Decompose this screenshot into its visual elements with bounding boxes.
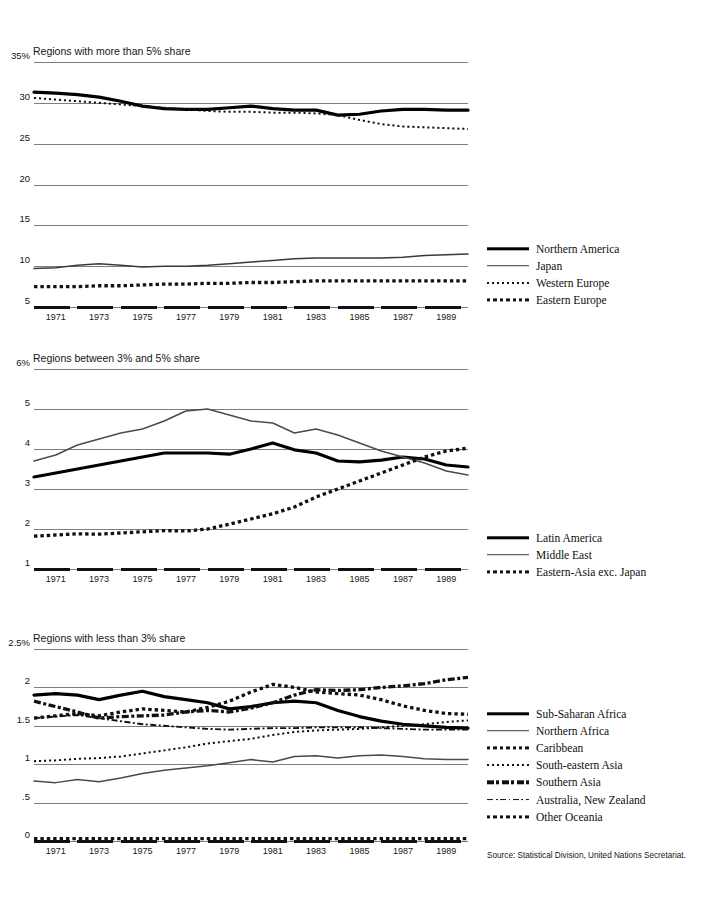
legend-swatch-icon: [487, 243, 529, 255]
x-axis-tick-label: 1971: [46, 312, 66, 322]
y-axis-tick-label: 2.5%: [8, 638, 30, 649]
legend-item[interactable]: Southern Asia: [487, 774, 646, 791]
legend-item[interactable]: Caribbean: [487, 739, 646, 756]
legend-item[interactable]: Other Oceania: [487, 808, 646, 825]
x-axis-tick-label: 1985: [349, 846, 369, 856]
legend-item-label: Eastern-Asia exc. Japan: [536, 566, 646, 578]
panel-3-legend: Sub-Saharan AfricaNorthern AfricaCaribbe…: [487, 705, 646, 825]
x-axis-labels: 1971197319751977197919811983198519871989: [34, 846, 468, 860]
legend-item[interactable]: Western Europe: [487, 274, 619, 291]
x-axis-tick-label: 1977: [176, 312, 196, 322]
legend-swatch-icon: [487, 294, 529, 306]
x-axis-tick-label: 1977: [176, 574, 196, 584]
series-line: [34, 755, 468, 783]
y-axis-tick-label: 25: [19, 133, 30, 144]
legend-item[interactable]: South-eastern Asia: [487, 757, 646, 774]
legend-item[interactable]: Eastern Europe: [487, 292, 619, 309]
legend-item-label: Northern Africa: [536, 725, 609, 737]
series-layer: [34, 649, 468, 841]
legend-swatch-icon: [487, 708, 529, 720]
legend-swatch-icon: [487, 260, 529, 272]
x-axis-tick-label: 1979: [219, 574, 239, 584]
series-line: [34, 720, 468, 761]
legend-item[interactable]: Northern America: [487, 240, 619, 257]
x-axis-tick-label: 1973: [89, 846, 109, 856]
x-axis-tick-label: 1987: [393, 574, 413, 584]
series-layer: [34, 369, 468, 569]
y-axis-tick-label: 2: [25, 676, 30, 687]
y-axis-tick-label: 0: [25, 830, 30, 841]
y-axis-tick-label: 35%: [11, 51, 30, 62]
panel-1-legend: Northern AmericaJapanWestern EuropeEaste…: [487, 240, 619, 309]
legend-swatch-icon: [487, 277, 529, 289]
legend-swatch-icon: [487, 532, 529, 544]
x-axis-tick-label: 1975: [132, 312, 152, 322]
x-axis-tick-label: 1983: [306, 574, 326, 584]
series-line: [34, 254, 468, 269]
legend-item[interactable]: Latin America: [487, 529, 646, 546]
legend-item-label: Eastern Europe: [536, 294, 607, 306]
legend-swatch-icon: [487, 759, 529, 771]
y-axis-tick-label: 15: [19, 214, 30, 225]
x-axis-tick-label: 1979: [219, 846, 239, 856]
y-axis-tick-label: 5: [25, 296, 30, 307]
panel-1-title: Regions with more than 5% share: [33, 45, 191, 57]
legend-swatch-icon: [487, 794, 529, 806]
panel-1-plot-area: 35%3025201510519711973197519771979198119…: [34, 62, 468, 307]
x-axis-rule: [34, 840, 468, 843]
series-line: [34, 715, 468, 730]
legend-swatch-icon: [487, 549, 529, 561]
y-axis-tick-label: 30: [19, 92, 30, 103]
series-line: [34, 98, 468, 129]
legend-item[interactable]: Japan: [487, 257, 619, 274]
x-axis-tick-label: 1981: [263, 846, 283, 856]
x-axis-rule: [34, 306, 468, 309]
y-axis-tick-label: 1.5: [17, 715, 30, 726]
x-axis-tick-label: 1981: [263, 312, 283, 322]
legend-item-label: Middle East: [536, 549, 592, 561]
panel-3-plot-area: 2.5%21.51.501971197319751977197919811983…: [34, 649, 468, 841]
x-axis-tick-label: 1981: [263, 574, 283, 584]
y-axis-tick-label: 20: [19, 174, 30, 185]
legend-item-label: Latin America: [536, 532, 602, 544]
series-layer: [34, 62, 468, 307]
x-axis-tick-label: 1987: [393, 312, 413, 322]
legend-item-label: Northern America: [536, 243, 619, 255]
legend-item-label: Japan: [536, 260, 562, 272]
series-line: [34, 281, 468, 287]
legend-swatch-icon: [487, 566, 529, 578]
series-line: [34, 443, 468, 477]
legend-item-label: Other Oceania: [536, 811, 603, 823]
legend-item-label: Australia, New Zealand: [536, 794, 646, 806]
series-line: [34, 448, 468, 536]
legend-item[interactable]: Sub-Saharan Africa: [487, 705, 646, 722]
x-axis-tick-label: 1987: [393, 846, 413, 856]
x-axis-tick-label: 1975: [132, 574, 152, 584]
y-axis-tick-label: 3: [25, 478, 30, 489]
legend-item[interactable]: Northern Africa: [487, 722, 646, 739]
x-axis-tick-label: 1983: [306, 846, 326, 856]
y-axis-tick-label: 1: [25, 558, 30, 569]
panel-2-plot-area: 6%54321197119731975197719791981198319851…: [34, 369, 468, 569]
panel-3-title: Regions with less than 3% share: [33, 632, 185, 644]
y-axis-tick-label: 6%: [16, 358, 30, 369]
legend-swatch-icon: [487, 776, 529, 788]
x-axis-tick-label: 1971: [46, 574, 66, 584]
x-axis-tick-label: 1971: [46, 846, 66, 856]
x-axis-tick-label: 1977: [176, 846, 196, 856]
y-axis-tick-label: 5: [25, 398, 30, 409]
legend-item[interactable]: Middle East: [487, 546, 646, 563]
panel-2-legend: Latin AmericaMiddle EastEastern-Asia exc…: [487, 529, 646, 581]
legend-item[interactable]: Australia, New Zealand: [487, 791, 646, 808]
legend-swatch-icon: [487, 811, 529, 823]
y-axis-tick-label: 10: [19, 255, 30, 266]
panel-2-title: Regions between 3% and 5% share: [33, 352, 200, 364]
y-axis-tick-label: 4: [25, 438, 30, 449]
x-axis-tick-label: 1983: [306, 312, 326, 322]
legend-item-label: Sub-Saharan Africa: [536, 708, 626, 720]
legend-item[interactable]: Eastern-Asia exc. Japan: [487, 563, 646, 580]
x-axis-tick-label: 1989: [436, 846, 456, 856]
x-axis-tick-label: 1985: [349, 312, 369, 322]
x-axis-tick-label: 1979: [219, 312, 239, 322]
clipped-header-text: [28, 0, 448, 4]
